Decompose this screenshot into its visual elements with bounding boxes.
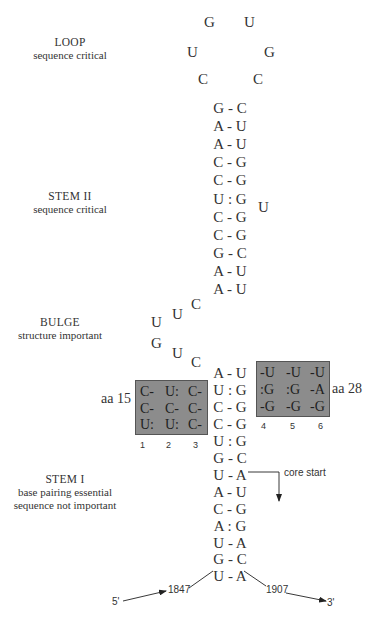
three-prime-arrow	[286, 593, 326, 601]
core-start-arrow	[248, 472, 279, 501]
connector-lines	[0, 0, 375, 626]
five-prime-arrow	[123, 591, 166, 601]
left-strand-line	[189, 571, 213, 588]
right-strand-line	[244, 571, 266, 586]
